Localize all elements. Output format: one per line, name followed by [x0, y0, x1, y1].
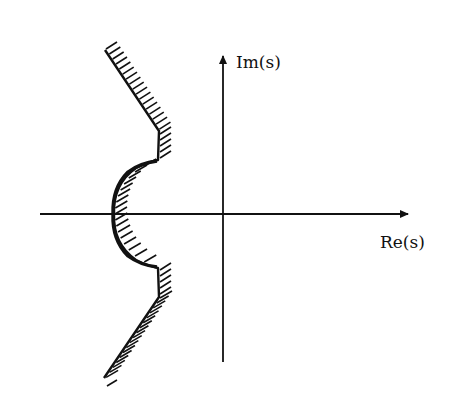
diagram-canvas: Im(s) Re(s) — [0, 0, 453, 413]
complex-plane-diagram — [0, 0, 453, 413]
y-axis-label: Im(s) — [236, 52, 281, 72]
x-axis-label: Re(s) — [380, 232, 425, 252]
